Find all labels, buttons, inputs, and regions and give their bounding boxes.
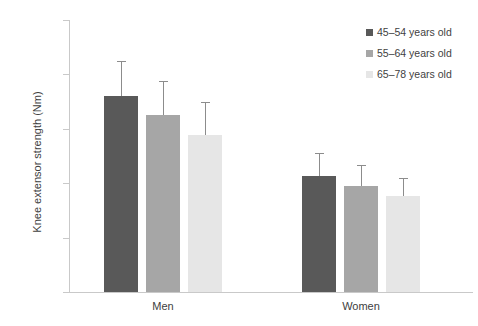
- legend-item-label: 65–78 years old: [377, 69, 452, 80]
- legend-item[interactable]: 45–54 years old: [366, 22, 476, 43]
- error-bar-cap: [315, 153, 324, 154]
- error-bar-stem: [163, 81, 164, 115]
- bar: [146, 115, 180, 292]
- error-bar-cap: [117, 61, 126, 62]
- bar: [188, 135, 222, 292]
- error-bar-stem: [361, 165, 362, 187]
- bar: [302, 176, 336, 292]
- legend-swatch-icon: [366, 50, 373, 57]
- legend-item-label: 45–54 years old: [377, 27, 452, 38]
- x-axis-category-label: Women: [342, 300, 380, 312]
- error-bar-cap: [399, 178, 408, 179]
- chart-legend: 45–54 years old55–64 years old65–78 year…: [366, 22, 476, 85]
- error-bar-cap: [159, 81, 168, 82]
- legend-item[interactable]: 65–78 years old: [366, 64, 476, 85]
- bar: [344, 186, 378, 292]
- error-bar-stem: [121, 61, 122, 96]
- bar: [104, 96, 138, 292]
- legend-swatch-icon: [366, 71, 373, 78]
- x-axis-category-label: Men: [152, 300, 173, 312]
- error-bar-cap: [201, 102, 210, 103]
- legend-item-label: 55–64 years old: [377, 48, 452, 59]
- legend-swatch-icon: [366, 29, 373, 36]
- error-bar-stem: [403, 178, 404, 196]
- bar-chart-figure: Knee extensor strength (Nm) 050100150200…: [0, 0, 478, 326]
- legend-item[interactable]: 55–64 years old: [366, 43, 476, 64]
- error-bar-cap: [357, 165, 366, 166]
- bar: [386, 196, 420, 292]
- error-bar-stem: [205, 102, 206, 136]
- error-bar-stem: [319, 153, 320, 176]
